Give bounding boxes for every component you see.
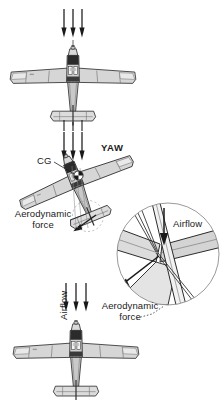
label-airflow-inset: Airflow — [173, 218, 202, 229]
label-aerodynamic-force-bottom-line2: force — [95, 311, 165, 322]
airplane-top-view-straight — [10, 46, 136, 126]
label-aerodynamic-force-middle-line1: Aerodynamic — [10, 208, 76, 219]
panel-top-straight-flight — [10, 9, 136, 131]
cg-marker — [74, 171, 83, 180]
label-aerodynamic-force-middle-line2: force — [10, 219, 76, 230]
yaw-aerodynamics-diagram — [0, 0, 220, 400]
airplane-top-view-restored — [13, 321, 139, 400]
magnified-detail-circle — [111, 203, 220, 305]
label-yaw: YAW — [101, 142, 124, 153]
label-airflow-bottom: Airflow — [58, 291, 69, 320]
airflow-arrows-top — [61, 9, 84, 38]
label-cg: CG — [37, 155, 51, 166]
label-aerodynamic-force-bottom-line1: Aerodynamic — [95, 300, 165, 311]
